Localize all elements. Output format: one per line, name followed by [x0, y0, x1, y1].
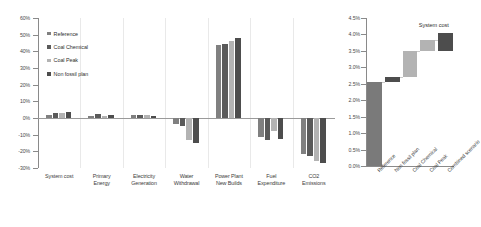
left-chart-y-tick-label: 10% [20, 98, 33, 104]
legend-item-label: Coal Peak [54, 57, 78, 63]
left-chart-bar-group [131, 18, 157, 168]
left-chart-bar [95, 114, 101, 118]
legend-item-coal-chemical: Coal Chemical [47, 40, 88, 53]
left-chart-y-tick-label: -30% [18, 165, 33, 171]
waterfall-bar [420, 40, 435, 51]
right-chart-y-tick-label: 4.5% [349, 15, 360, 21]
right-chart-y-tick-label: 1.0% [349, 130, 360, 136]
left-chart-bar [46, 115, 52, 118]
left-chart-category-label-line: System cost [38, 173, 80, 180]
left-chart-bar [193, 118, 199, 143]
grouped-bar-chart-panel: -30%-20%-10%0%10%20%30%40%50%60% System … [0, 0, 345, 227]
left-chart-bar-group [216, 18, 242, 168]
right-chart-y-tick-label: 1.5% [349, 114, 360, 120]
left-chart-bar [307, 118, 313, 156]
legend-swatch-icon [47, 45, 51, 49]
right-chart-y-tick-label: 0.0% [349, 163, 360, 169]
left-chart-bar-group [301, 18, 327, 168]
left-chart-category-label: ElectricityGeneration [123, 173, 165, 187]
left-chart-category-label: PrimaryEnergy [80, 173, 122, 187]
left-chart-legend: ReferenceCoal ChemicalCoal PeakNon fossi… [47, 27, 88, 81]
right-chart-y-tick-label: 2.0% [349, 97, 360, 103]
left-chart-bar [235, 38, 241, 118]
left-chart-category-label-line: New Builds [208, 180, 250, 187]
left-chart-bar [144, 115, 150, 118]
waterfall-connector [400, 77, 403, 78]
left-chart-bar [271, 118, 277, 131]
right-chart-y-tick-label: 4.0% [349, 31, 360, 37]
legend-item-coal-peak: Coal Peak [47, 54, 88, 67]
left-chart-bar [66, 112, 72, 118]
left-chart-y-tick-label: 60% [20, 15, 33, 21]
left-chart-gridline [293, 18, 294, 168]
left-chart-bar [265, 118, 271, 140]
left-chart-bar [59, 113, 65, 119]
left-chart-category-label-line: Electricity [123, 173, 165, 180]
left-chart-y-tick-label: -20% [18, 148, 33, 154]
legend-item-reference: Reference [47, 27, 88, 40]
waterfall-bar [438, 33, 453, 51]
left-chart-y-tick-label: -10% [18, 132, 33, 138]
waterfall-title: System cost [419, 22, 449, 28]
legend-item-label: Coal Chemical [54, 44, 88, 50]
left-chart-bar [102, 116, 108, 118]
right-chart-y-tick-label: 3.0% [349, 64, 360, 70]
left-chart-category-label-line: CO2 [293, 173, 335, 180]
left-chart-category-label-line: Emissions [293, 180, 335, 187]
right-chart-y-tick-label: 2.5% [349, 81, 360, 87]
left-chart-category-label: WaterWithdrawal [165, 173, 207, 187]
left-chart-bar [151, 116, 157, 118]
left-chart-bar-group [258, 18, 284, 168]
left-chart-bar [278, 118, 284, 139]
left-chart-gridline [165, 18, 166, 168]
left-chart-category-label-line: Energy [80, 180, 122, 187]
legend-swatch-icon [47, 72, 51, 76]
legend-item-non-fossil-plan: Non fossil plan [47, 67, 88, 80]
right-chart-y-tick-label: 3.5% [349, 48, 360, 54]
left-chart-y-tick-label: 40% [20, 48, 33, 54]
left-chart-bar [137, 115, 143, 118]
left-chart-category-label-line: Withdrawal [165, 180, 207, 187]
left-chart-bar [180, 118, 186, 126]
left-chart-bar [301, 118, 307, 154]
left-chart-category-label-line: Expenditure [250, 180, 292, 187]
legend-item-label: Reference [54, 31, 78, 37]
left-chart-category-label: System cost [38, 173, 80, 180]
left-chart-category-label-line: Generation [123, 180, 165, 187]
waterfall-bar [385, 77, 400, 83]
left-chart-gridline [208, 18, 209, 168]
left-chart-category-label-line: Water [165, 173, 207, 180]
left-chart-bar [88, 116, 94, 118]
waterfall-connector [382, 82, 385, 83]
legend-swatch-icon [47, 59, 51, 63]
left-chart-bar [186, 118, 192, 140]
right-chart-y-tick [361, 166, 366, 167]
left-chart-bar-group [88, 18, 114, 168]
left-chart-category-label-line: Power Plant [208, 173, 250, 180]
left-chart-category-label: FuelExpenditure [250, 173, 292, 187]
left-chart-bar [314, 118, 320, 161]
left-chart-gridline [250, 18, 251, 168]
waterfall-connector [417, 51, 420, 52]
left-chart-y-tick [33, 168, 38, 169]
left-chart-y-tick-label: 20% [20, 82, 33, 88]
left-chart-category-label-line: Primary [80, 173, 122, 180]
left-chart-bar [229, 41, 235, 119]
waterfall-bar [403, 51, 418, 77]
left-chart-bar [131, 115, 137, 118]
left-chart-bar [216, 45, 222, 118]
legend-swatch-icon [47, 32, 51, 36]
left-chart-y-tick-label: 50% [20, 32, 33, 38]
left-chart-bar [258, 118, 264, 137]
left-chart-category-label: Power PlantNew Builds [208, 173, 250, 187]
left-chart-bar [173, 118, 179, 124]
right-chart-y-tick-label: 0.5% [349, 147, 360, 153]
left-chart-y-tick-label: 0% [23, 115, 33, 121]
left-chart-bar-group [173, 18, 199, 168]
left-chart-bar [320, 118, 326, 163]
waterfall-bar [367, 82, 382, 166]
left-chart-bar [222, 44, 228, 118]
left-chart-bar [53, 113, 59, 118]
left-chart-y-tick-label: 30% [20, 65, 33, 71]
